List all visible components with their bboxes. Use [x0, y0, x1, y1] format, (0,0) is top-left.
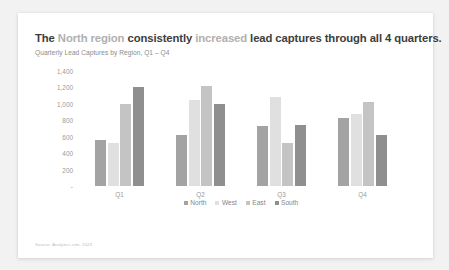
- bar-south-q1: [133, 87, 144, 186]
- bar-north-q4: [338, 118, 349, 186]
- bar-west-q3: [270, 97, 281, 186]
- title-segment-1: North region: [58, 32, 128, 44]
- source-note: Source: Analytics.crm, 2023: [35, 242, 92, 247]
- legend-swatch-icon: [246, 201, 250, 205]
- title-segment-3: increased: [195, 32, 250, 44]
- bar-east-q2: [201, 86, 212, 186]
- bar-north-q3: [257, 126, 268, 186]
- x-axis-label: Q2: [176, 191, 225, 198]
- legend-item-east[interactable]: East: [246, 199, 266, 206]
- bar-west-q1: [108, 143, 119, 186]
- legend-swatch-icon: [184, 201, 188, 205]
- chart-subtitle: Quarterly Lead Captures by Region, Q1 – …: [35, 49, 169, 56]
- chart-legend: NorthWestEastSouth: [79, 199, 403, 206]
- bar-north-q2: [176, 135, 187, 186]
- bar-east-q1: [120, 104, 131, 186]
- bar-north-q1: [95, 140, 106, 186]
- bar-south-q4: [376, 135, 387, 186]
- y-axis-tick: 200: [35, 166, 73, 173]
- y-axis: -2004006008001,0001,2001,400: [35, 71, 73, 186]
- bar-west-q2: [189, 100, 200, 186]
- chart-plot-area: -2004006008001,0001,2001,400 Q1Q2Q3Q4 No…: [35, 71, 415, 206]
- y-axis-tick: 800: [35, 117, 73, 124]
- y-axis-tick: 600: [35, 133, 73, 140]
- y-axis-tick: 1,400: [35, 68, 73, 75]
- bar-group: Q1: [95, 71, 144, 186]
- y-axis-tick: 1,000: [35, 100, 73, 107]
- bar-groups: Q1Q2Q3Q4: [79, 71, 403, 186]
- bar-west-q4: [351, 114, 362, 186]
- bar-group: Q4: [338, 71, 387, 186]
- legend-swatch-icon: [215, 201, 219, 205]
- bar-south-q3: [295, 125, 306, 186]
- y-axis-tick: 1,200: [35, 84, 73, 91]
- legend-label: South: [281, 199, 298, 206]
- legend-label: West: [222, 199, 237, 206]
- legend-item-south[interactable]: South: [275, 199, 299, 206]
- x-axis-label: Q4: [338, 191, 387, 198]
- page-title: The North region consistently increased …: [35, 32, 425, 44]
- bar-south-q2: [214, 104, 225, 186]
- legend-label: North: [190, 199, 206, 206]
- x-axis-label: Q1: [95, 191, 144, 198]
- legend-item-west[interactable]: West: [215, 199, 236, 206]
- y-axis-tick: 400: [35, 150, 73, 157]
- title-segment-0: The: [35, 32, 58, 44]
- bar-group: Q2: [176, 71, 225, 186]
- bar-east-q4: [363, 102, 374, 186]
- y-axis-tick: -: [35, 183, 73, 190]
- legend-item-north[interactable]: North: [184, 199, 207, 206]
- bar-group: Q3: [257, 71, 306, 186]
- chart-card: The North region consistently increased …: [18, 13, 433, 258]
- title-segment-2: consistently: [127, 32, 195, 44]
- legend-swatch-icon: [275, 201, 279, 205]
- x-axis-label: Q3: [257, 191, 306, 198]
- bar-east-q3: [282, 143, 293, 186]
- legend-label: East: [252, 199, 265, 206]
- title-segment-4: lead captures through all 4 quarters.: [250, 32, 442, 44]
